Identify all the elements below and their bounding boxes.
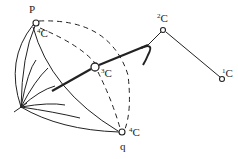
atom-q [119,129,125,135]
bond-c2-c1 [166,32,220,77]
label-q: q [120,140,126,152]
thick-bond [52,69,91,91]
atom-c3 [91,63,99,71]
fan-curve-7 [21,107,80,118]
thick-bond-2 [99,45,148,65]
diagram-canvas: P 4C 3C 2C 1C 4C q [0,0,238,159]
label-c2: 2C [157,12,168,24]
fan-curve-8 [21,107,119,132]
label-P-atom: 4C [37,27,48,39]
dashed-arc-inner [40,28,95,63]
fan-curve-3 [21,60,36,107]
fan-curve-6 [21,104,65,107]
bond-c3-c2 [148,32,161,45]
label-P: P [29,3,35,15]
label-c3: 3C [101,67,112,79]
atom-c2 [161,28,166,33]
label-q-atom: 4C [129,126,140,138]
dashed-arc-outer [39,21,129,129]
thick-hook [141,46,150,65]
atom-P [33,20,39,26]
atom-c1 [220,77,225,82]
